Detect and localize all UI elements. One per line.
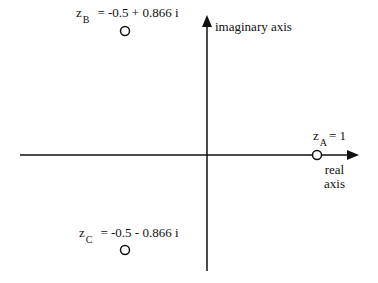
point-c-var: z <box>79 225 85 240</box>
point-a-subscript: A <box>320 137 327 148</box>
real-axis-label: real axis <box>324 163 345 190</box>
real-axis-label-line1: real <box>324 163 345 177</box>
point-b-label: zB= -0.5 + 0.866 i <box>76 6 179 19</box>
point-c-value: = -0.5 - 0.866 i <box>100 225 178 240</box>
real-axis-arrowhead-icon <box>347 150 359 160</box>
point-b-value: = -0.5 + 0.866 i <box>97 5 178 20</box>
point-b-subscript: B <box>83 14 90 25</box>
imaginary-axis-label-text: imaginary axis <box>215 19 292 34</box>
point-c-subscript: C <box>86 234 93 245</box>
point-a-value: = 1 <box>329 128 346 143</box>
point-a-marker <box>313 151 322 160</box>
point-a-label: zA= 1 <box>313 129 346 142</box>
point-b-var: z <box>76 5 82 20</box>
imaginary-axis-arrowhead-icon <box>202 15 212 27</box>
point-a-var: z <box>313 128 319 143</box>
real-axis-label-line2: axis <box>324 177 345 191</box>
point-c-marker <box>121 246 130 255</box>
imaginary-axis-label: imaginary axis <box>215 20 292 34</box>
point-b-marker <box>121 27 130 36</box>
point-c-label: zC= -0.5 - 0.866 i <box>79 226 179 239</box>
